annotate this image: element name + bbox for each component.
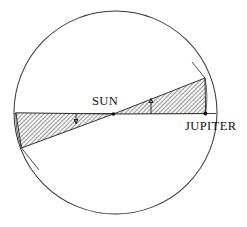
left-wedge-crosshatch xyxy=(16,113,114,148)
right-sight-line xyxy=(192,62,205,78)
right-wedge-crosshatch xyxy=(114,78,206,114)
jupiter-point xyxy=(204,112,208,116)
jupiter-label: JUPITER xyxy=(185,119,237,133)
diagram-canvas: SUN JUPITER xyxy=(0,0,247,227)
sun-label: SUN xyxy=(92,94,118,108)
astronomy-diagram: SUN JUPITER xyxy=(0,0,247,227)
sun-point xyxy=(112,112,115,115)
